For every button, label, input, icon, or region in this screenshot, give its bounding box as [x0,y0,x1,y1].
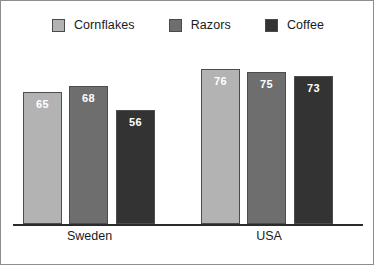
bar-sweden-cornflakes[interactable]: 65 [23,92,62,224]
plot-area: 65 68 56 76 75 73 [1,41,374,226]
x-axis-label-sweden: Sweden [23,229,156,243]
bar-value-label: 56 [117,116,154,128]
legend-label-razors: Razors [191,18,231,32]
bar-group-sweden: 65 68 56 [23,41,156,224]
bar-chart: Cornflakes Razors Coffee 65 68 56 76 [0,0,374,265]
bar-value-label: 75 [248,78,285,90]
legend-swatch-icon-razors [169,19,182,32]
legend-label-cornflakes: Cornflakes [74,18,135,32]
legend-item-coffee[interactable]: Coffee [265,18,324,32]
legend-item-cornflakes[interactable]: Cornflakes [52,18,135,32]
legend-swatch-icon-coffee [265,19,278,32]
bar-value-label: 76 [202,75,239,87]
bar-usa-razors[interactable]: 75 [247,72,286,225]
legend-item-razors[interactable]: Razors [169,18,231,32]
bar-sweden-razors[interactable]: 68 [69,86,108,224]
bar-sweden-coffee[interactable]: 56 [116,110,155,224]
legend-label-coffee: Coffee [287,18,324,32]
bar-usa-cornflakes[interactable]: 76 [201,69,240,224]
bar-usa-coffee[interactable]: 73 [294,76,333,224]
x-axis-line [13,224,363,226]
legend-swatch-icon-cornflakes [52,19,65,32]
bar-value-label: 73 [295,82,332,94]
bar-value-label: 65 [24,98,61,110]
bar-group-usa: 76 75 73 [201,41,337,224]
bar-value-label: 68 [70,92,107,104]
x-axis-tick-labels: Sweden USA [1,229,374,249]
chart-legend: Cornflakes Razors Coffee [1,14,374,36]
x-axis-label-usa: USA [201,229,337,243]
